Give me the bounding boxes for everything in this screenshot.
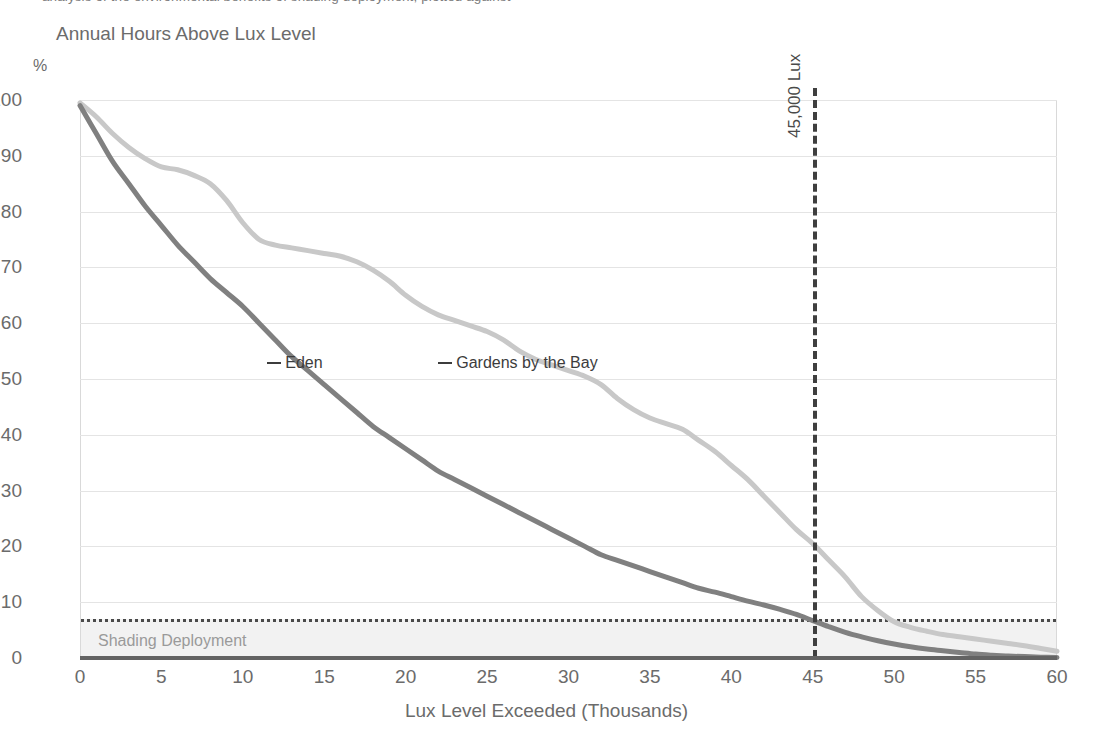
x-axis-tick-label: 20	[376, 666, 436, 688]
x-axis-tick-label: 50	[864, 666, 924, 688]
x-axis-tick-label: 15	[294, 666, 354, 688]
x-axis-title: Lux Level Exceeded (Thousands)	[0, 700, 1093, 722]
x-axis-baseline	[80, 656, 1057, 660]
series-line-gardens-by-the-bay	[80, 103, 1057, 652]
threshold-vertical-line	[813, 88, 817, 658]
chart-title: Annual Hours Above Lux Level	[56, 23, 316, 45]
x-axis-tick-label: 30	[539, 666, 599, 688]
x-axis-tick-label: 40	[701, 666, 761, 688]
series-line-eden	[80, 106, 1057, 658]
series-lines	[80, 100, 1057, 658]
callout-dash-icon	[438, 362, 452, 364]
series-callout-eden: Eden	[267, 354, 322, 372]
x-axis-tick-label: 0	[50, 666, 110, 684]
y-axis-tick-label: 10	[0, 591, 22, 613]
y-axis-tick-label: 60	[0, 312, 22, 334]
y-axis-tick-label: 0	[0, 647, 22, 669]
x-axis-tick-label: 35	[620, 666, 680, 688]
y-axis-tick-label: 80	[0, 201, 22, 223]
x-axis-tick-label: 25	[457, 666, 517, 688]
y-axis-tick-label: 70	[0, 256, 22, 278]
series-callout-label: Gardens by the Bay	[456, 354, 597, 372]
callout-dash-icon	[267, 362, 281, 364]
y-axis-tick-label: 50	[0, 368, 22, 390]
y-axis-tick-label: 20	[0, 535, 22, 557]
y-axis-tick-label: 30	[0, 480, 22, 502]
series-callout-label: Eden	[285, 354, 322, 372]
y-axis-tick-label: 40	[0, 424, 22, 446]
clipped-body-text: analysis of the environmental benefits o…	[42, 0, 511, 4]
y-axis-unit-label: %	[33, 57, 47, 75]
y-axis-tick-label: 100	[0, 89, 22, 111]
x-axis-tick-label: 45	[783, 666, 843, 688]
x-axis-tick-label: 5	[131, 666, 191, 688]
x-axis-tick-label: 10	[213, 666, 273, 688]
x-axis-tick-label: 55	[946, 666, 1006, 688]
x-axis-tick-label: 60	[1027, 666, 1087, 688]
series-callout-gardens-by-the-bay: Gardens by the Bay	[438, 354, 597, 372]
plot-area: 0102030405060708090100 Shading Deploymen…	[80, 100, 1057, 658]
threshold-label: 45,000 Lux	[785, 54, 805, 138]
y-axis-tick-label: 90	[0, 145, 22, 167]
